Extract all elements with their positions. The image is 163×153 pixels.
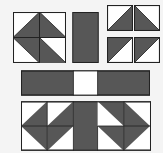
hst-bottom-left: [107, 37, 133, 63]
horizontal-strip: [21, 70, 150, 96]
hst-top-right: [134, 5, 160, 31]
hst-bottom-right: [134, 37, 160, 63]
pinwheel-block: [13, 12, 66, 63]
assembled-row: [21, 101, 151, 151]
vertical-bar-graphic: [72, 12, 99, 63]
hst-graphic: [134, 37, 160, 63]
hst-graphic: [134, 5, 160, 31]
hst-top-left: [107, 5, 133, 31]
horizontal-strip-graphic: [21, 70, 150, 96]
vertical-bar: [72, 12, 99, 63]
pinwheel-block-graphic: [13, 12, 66, 63]
assembled-row-graphic: [21, 101, 151, 151]
hst-graphic: [107, 37, 133, 63]
hst-graphic: [107, 5, 133, 31]
